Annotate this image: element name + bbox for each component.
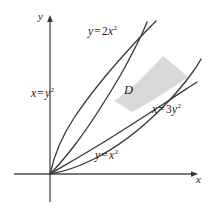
x-axis-label: x [196,174,201,185]
label-equals: = [100,149,109,161]
curve-label-x-equals-y-squared: x=y2 [31,88,54,100]
label-equals: = [93,25,102,37]
y-axis-arrowhead [47,15,53,22]
label-variable: x [108,25,113,37]
label-equals: = [157,103,166,115]
label-equals: = [36,87,45,99]
y-axis-label: y [38,11,43,22]
curve-label-x-equals-3y-squared: x=3y2 [152,104,181,116]
figure-canvas: y=2x2 x=y2 x=3y2 y=x2 D y x [0,0,211,211]
region-label-d: D [124,84,133,97]
label-variable: y [172,103,177,115]
curve-label-y-equals-2x-squared: y=2x2 [88,26,117,38]
curve-label-y-equals-x-squared: y=x2 [95,150,118,162]
label-exponent: 2 [115,148,119,156]
label-exponent: 2 [114,24,118,32]
label-exponent: 2 [178,102,182,110]
label-variable: y [45,87,50,99]
label-variable: x [109,149,114,161]
label-exponent: 2 [51,86,55,94]
